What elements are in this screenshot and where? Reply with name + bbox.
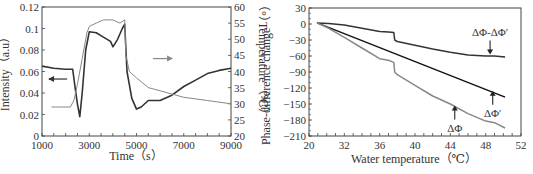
- x-tick-label: 3000: [78, 139, 101, 151]
- arrowhead-icon: [167, 56, 173, 62]
- y2-tick-label: 30: [234, 98, 246, 110]
- y-tick-label: 0: [34, 130, 40, 142]
- y-tick-label: 0.1: [25, 23, 39, 35]
- y2-tick-label: 35: [234, 82, 246, 94]
- arrowhead-icon: [487, 49, 493, 54]
- y-tick-label: −60: [289, 50, 307, 62]
- y2-tick-label: 40: [234, 66, 246, 78]
- y2-tick-label: 50: [234, 33, 246, 45]
- y2-tick-label: 45: [234, 49, 246, 61]
- y2-tick-label: 55: [234, 17, 246, 29]
- right-ylabel: Phase-difference change（°）: [259, 0, 273, 145]
- y-tick-label: 0.06: [20, 66, 40, 78]
- x-tick-label: 40: [410, 139, 422, 151]
- y-tick-label: 0.08: [20, 44, 40, 56]
- chart-canvas: 1000300050007000900000.020.040.060.080.1…: [0, 0, 533, 174]
- series-intensity: [42, 24, 231, 117]
- y-tick-label: 30: [295, 2, 307, 14]
- left-plot-frame: [42, 7, 231, 136]
- y-tick-label: −120: [283, 82, 306, 94]
- right-xlabel: Water temperature（℃）: [351, 152, 477, 166]
- y2-tick-label: 20: [234, 130, 246, 142]
- y-tick-label: 0.04: [20, 87, 40, 99]
- left-xlabel: Time（s）: [109, 149, 163, 163]
- y2-tick-label: 60: [234, 1, 246, 13]
- arrowhead-icon: [48, 76, 54, 82]
- annotation-label: ΔΦ: [447, 122, 462, 134]
- left-axis-ticks: 1000300050007000900000.020.040.060.080.1…: [20, 1, 246, 151]
- series-temperature: [52, 20, 232, 107]
- x-tick-label: 48: [480, 139, 492, 151]
- y2-tick-label: 25: [234, 114, 246, 126]
- y-tick-label: −90: [289, 66, 307, 78]
- series-line: [317, 23, 505, 128]
- annotation-label: ΔΦ-ΔΦ′: [472, 26, 508, 38]
- left-series: [42, 20, 231, 117]
- right-series: [317, 23, 505, 128]
- left-chart: 1000300050007000900000.020.040.060.080.1…: [0, 1, 270, 163]
- left-ylabel: Intensity（a.u）: [0, 31, 12, 111]
- y-tick-label: −210: [283, 130, 306, 142]
- x-tick-label: 36: [374, 139, 386, 151]
- y-tick-label: 0.02: [20, 109, 39, 121]
- y-tick-label: −150: [283, 98, 306, 110]
- y-tick-label: 0.12: [20, 1, 39, 13]
- x-tick-label: 44: [445, 139, 457, 151]
- annotation-label: ΔΦ′: [484, 107, 502, 119]
- y-tick-label: −180: [283, 114, 306, 126]
- x-tick-label: 32: [339, 139, 350, 151]
- y-tick-label: −30: [289, 34, 307, 46]
- x-tick-label: 7000: [173, 139, 196, 151]
- right-chart: 20323640444852300−30−60−90−120−150−180−2…: [259, 0, 527, 166]
- x-tick-label: 52: [516, 139, 527, 151]
- y-tick-label: 0: [301, 18, 307, 30]
